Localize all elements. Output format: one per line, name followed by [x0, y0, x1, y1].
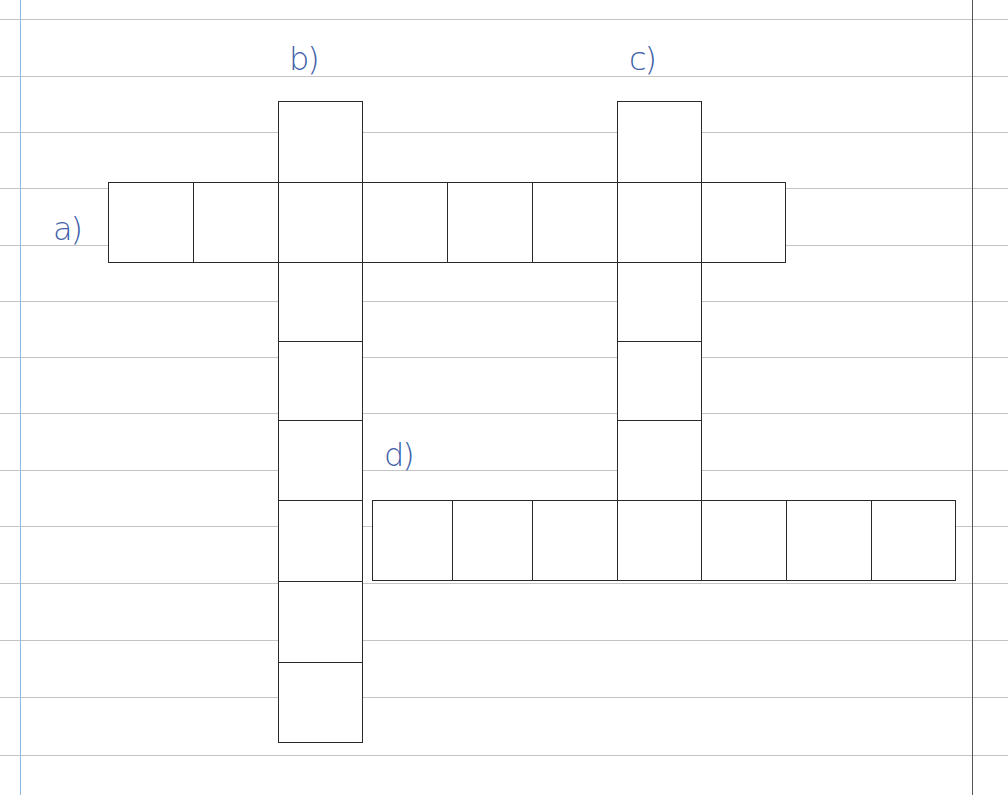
- crossword-cell[interactable]: [278, 500, 363, 582]
- crossword-cell[interactable]: [278, 341, 363, 421]
- rule-line: [0, 132, 1008, 133]
- clue-label-d: d): [384, 436, 413, 474]
- crossword-cell-intersection[interactable]: [278, 182, 363, 263]
- clue-label-b: b): [289, 40, 318, 78]
- crossword-cell[interactable]: [701, 500, 787, 581]
- crossword-cell[interactable]: [617, 341, 702, 421]
- crossword-cell[interactable]: [617, 101, 702, 183]
- crossword-cell-intersection[interactable]: [617, 500, 702, 581]
- rule-line: [0, 357, 1008, 358]
- crossword-cell[interactable]: [701, 182, 786, 263]
- right-margin-line: [972, 0, 973, 795]
- crossword-cell[interactable]: [108, 182, 194, 263]
- crossword-cell[interactable]: [372, 500, 453, 581]
- crossword-cell[interactable]: [447, 182, 533, 263]
- crossword-cell[interactable]: [278, 262, 363, 342]
- rule-line: [0, 470, 1008, 471]
- crossword-cell[interactable]: [193, 182, 279, 263]
- rule-line: [0, 413, 1008, 414]
- crossword-cell[interactable]: [617, 262, 702, 342]
- crossword-cell[interactable]: [452, 500, 533, 581]
- crossword-cell-intersection[interactable]: [617, 182, 702, 263]
- crossword-cell[interactable]: [362, 182, 448, 263]
- clue-label-a: a): [53, 210, 81, 248]
- crossword-cell[interactable]: [278, 420, 363, 501]
- crossword-cell[interactable]: [871, 500, 956, 581]
- left-margin-line: [20, 0, 21, 795]
- rule-line: [0, 583, 1008, 584]
- crossword-cell[interactable]: [278, 581, 363, 663]
- rule-line: [0, 697, 1008, 698]
- crossword-cell[interactable]: [532, 500, 618, 581]
- rule-line: [0, 76, 1008, 77]
- clue-label-c: c): [629, 40, 655, 78]
- crossword-cell[interactable]: [278, 662, 363, 743]
- rule-line: [0, 640, 1008, 641]
- crossword-cell[interactable]: [532, 182, 618, 263]
- rule-line: [0, 19, 1008, 20]
- crossword-cell[interactable]: [278, 101, 363, 183]
- crossword-cell[interactable]: [786, 500, 872, 581]
- rule-line: [0, 755, 1008, 756]
- crossword-cell[interactable]: [617, 420, 702, 501]
- rule-line: [0, 301, 1008, 302]
